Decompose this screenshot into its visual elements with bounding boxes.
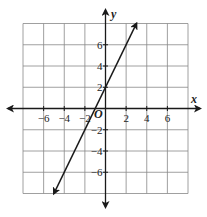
- x-tick-label: −6: [38, 112, 50, 124]
- coordinate-plane: −6−4−2246642−2−4−6 x y O: [0, 0, 207, 217]
- y-tick-label: −4: [91, 145, 103, 157]
- y-tick-label: 6: [97, 39, 103, 51]
- axes: [8, 10, 200, 207]
- x-tick-label: 6: [165, 112, 171, 124]
- origin-label: O: [94, 107, 103, 121]
- y-tick-label: 4: [97, 60, 103, 72]
- x-tick-label: 4: [144, 112, 150, 124]
- x-axis-label: x: [190, 92, 197, 106]
- x-tick-label: 2: [123, 112, 129, 124]
- y-tick-label: −2: [91, 124, 103, 136]
- x-tick-label: −4: [58, 112, 70, 124]
- y-tick-label: −6: [91, 166, 103, 178]
- y-tick-label: 2: [97, 81, 103, 93]
- y-axis-label: y: [109, 7, 117, 21]
